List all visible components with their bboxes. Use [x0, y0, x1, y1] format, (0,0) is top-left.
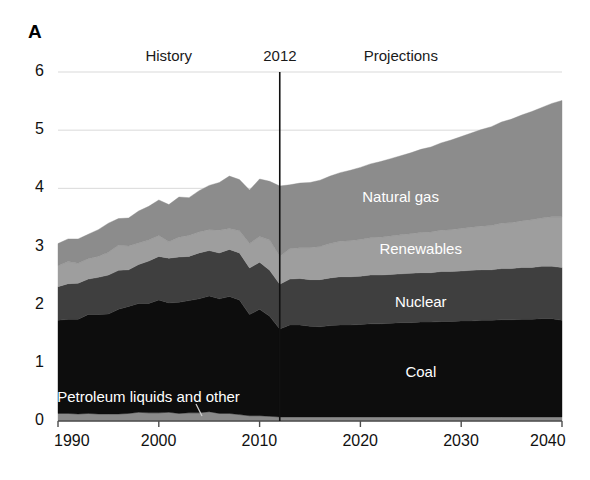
- y-axis-tick-label-6: 6: [16, 63, 44, 79]
- series-label-natural-gas: Natural gas: [362, 189, 439, 204]
- divider-year-label: 2012: [263, 48, 296, 63]
- x-axis-tick-label-2000: 2000: [141, 433, 177, 449]
- series-label-coal: Coal: [405, 364, 436, 379]
- y-axis-tick-label-3: 3: [16, 238, 44, 254]
- y-axis-tick-label-2: 2: [16, 296, 44, 312]
- axis-group: [58, 421, 562, 427]
- x-axis-tick-label-2040: 2040: [530, 433, 566, 449]
- x-axis-tick-label-2020: 2020: [342, 433, 378, 449]
- series-label-nuclear: Nuclear: [395, 294, 447, 309]
- x-axis-tick-label-2030: 2030: [443, 433, 479, 449]
- y-axis-tick-label-0: 0: [16, 412, 44, 428]
- projections-label: Projections: [364, 48, 438, 63]
- x-axis-tick-label-2010: 2010: [242, 433, 278, 449]
- y-axis-tick-label-5: 5: [16, 121, 44, 137]
- y-axis-tick-label-1: 1: [16, 354, 44, 370]
- area-series-group: [58, 101, 562, 422]
- figure-panel-a: A 0123456199020002010202020302040History…: [0, 0, 590, 480]
- y-axis-tick-label-4: 4: [16, 179, 44, 195]
- x-axis-tick-label-1990: 1990: [54, 433, 90, 449]
- series-label-renewables: Renewables: [379, 241, 462, 256]
- series-label-petroleum-liquids-and-other: Petroleum liquids and other: [57, 389, 240, 404]
- stacked-area-chart: [0, 0, 590, 480]
- history-label: History: [145, 48, 192, 63]
